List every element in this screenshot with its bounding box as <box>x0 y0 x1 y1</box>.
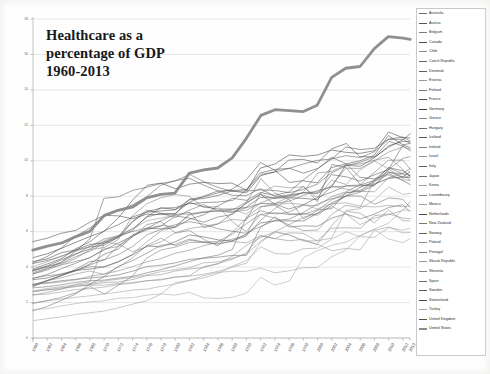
series-line <box>33 210 410 321</box>
legend-item[interactable]: United States <box>417 324 485 334</box>
legend-item-label: Sweden <box>429 288 442 293</box>
legend-item[interactable]: Turkey <box>417 305 485 315</box>
legend-line-swatch <box>419 223 427 224</box>
legend-item-label: United States <box>429 326 451 331</box>
legend-item[interactable]: Denmark <box>417 66 485 76</box>
legend-item[interactable]: Slovak Republic <box>417 257 485 267</box>
series-line <box>33 141 410 274</box>
legend-item[interactable]: Norway <box>417 229 485 239</box>
legend-item[interactable]: Finland <box>417 85 485 95</box>
legend-line-swatch <box>419 271 427 272</box>
legend-item[interactable]: Israel <box>417 152 485 162</box>
y-tick-label: 6 <box>18 229 28 233</box>
legend-item-label: Australia <box>429 11 443 16</box>
legend-item[interactable]: Portugal <box>417 248 485 258</box>
legend-item-label: United Kingdom <box>429 317 455 322</box>
legend-item[interactable]: Canada <box>417 38 485 48</box>
legend-line-swatch <box>419 233 427 234</box>
legend-item[interactable]: France <box>417 95 485 105</box>
legend-item-label: Israel <box>429 154 438 159</box>
legend-item[interactable]: Iceland <box>417 133 485 143</box>
legend-item[interactable]: Switzerland <box>417 295 485 305</box>
legend-item[interactable]: Netherlands <box>417 209 485 219</box>
legend-line-swatch <box>419 42 427 43</box>
legend-item[interactable]: Czech Republic <box>417 57 485 67</box>
series-line <box>33 175 410 274</box>
legend-line-swatch <box>419 156 427 157</box>
legend-item-label: Korea <box>429 183 439 188</box>
legend-item-label: Mexico <box>429 202 441 207</box>
legend-line-swatch <box>419 281 427 282</box>
y-tick-label: 8 <box>18 194 28 198</box>
legend-item[interactable]: Ireland <box>417 143 485 153</box>
legend-line-swatch <box>419 109 427 110</box>
legend-item-label: Turkey <box>429 307 440 312</box>
legend-line-swatch <box>419 13 427 14</box>
legend-line-swatch <box>419 118 427 119</box>
legend-line-swatch <box>419 309 427 310</box>
legend-line-swatch <box>419 300 427 301</box>
legend-item-label: Switzerland <box>429 298 448 303</box>
y-tick-label: 2 <box>18 300 28 304</box>
chart-legend[interactable]: AustraliaAustriaBelgiumCanadaChileCzech … <box>416 8 486 356</box>
legend-item-label: Chile <box>429 49 437 54</box>
legend-line-swatch <box>419 214 427 215</box>
legend-line-swatch <box>419 71 427 72</box>
y-tick-label: 16 <box>18 52 28 56</box>
legend-item[interactable]: Chile <box>417 47 485 57</box>
legend-item-label: Luxembourg <box>429 193 450 198</box>
legend-item[interactable]: Spain <box>417 276 485 286</box>
legend-item[interactable]: United Kingdom <box>417 315 485 325</box>
legend-item-label: Spain <box>429 279 438 284</box>
legend-line-swatch <box>419 328 427 330</box>
legend-item-label: Hungary <box>429 126 443 131</box>
legend-item-label: Portugal <box>429 250 443 255</box>
legend-item[interactable]: Poland <box>417 238 485 248</box>
legend-item[interactable]: Japan <box>417 171 485 181</box>
legend-item[interactable]: Luxembourg <box>417 190 485 200</box>
legend-line-swatch <box>419 23 427 24</box>
legend-item-label: Denmark <box>429 69 444 74</box>
legend-item[interactable]: Estonia <box>417 76 485 86</box>
legend-item[interactable]: Italy <box>417 162 485 172</box>
legend-item-label: Netherlands <box>429 212 449 217</box>
legend-item[interactable]: Australia <box>417 9 485 19</box>
legend-item-label: Estonia <box>429 78 441 83</box>
legend-item-label: Austria <box>429 21 440 26</box>
y-tick-label: 18 <box>18 17 28 21</box>
series-line <box>33 137 410 270</box>
legend-item[interactable]: Korea <box>417 181 485 191</box>
legend-item[interactable]: Sweden <box>417 286 485 296</box>
legend-item-label: Greece <box>429 116 441 121</box>
legend-item[interactable]: Belgium <box>417 28 485 38</box>
legend-line-swatch <box>419 204 427 205</box>
legend-item[interactable]: Germany <box>417 104 485 114</box>
legend-item[interactable]: New Zealand <box>417 219 485 229</box>
legend-item[interactable]: Slovenia <box>417 267 485 277</box>
legend-line-swatch <box>419 90 427 91</box>
legend-line-swatch <box>419 80 427 81</box>
title-line-1: Healthcare as a <box>46 26 221 44</box>
legend-item[interactable]: Greece <box>417 114 485 124</box>
legend-item[interactable]: Mexico <box>417 200 485 210</box>
legend-line-swatch <box>419 290 427 291</box>
y-tick-label: 10 <box>18 158 28 162</box>
title-line-2: percentage of GDP <box>46 44 221 62</box>
legend-item-label: New Zealand <box>429 221 451 226</box>
legend-line-swatch <box>419 147 427 148</box>
legend-item[interactable]: Hungary <box>417 124 485 134</box>
legend-item-label: Slovak Republic <box>429 259 455 264</box>
legend-line-swatch <box>419 128 427 129</box>
series-line <box>33 168 410 280</box>
legend-line-swatch <box>419 137 427 138</box>
series-line <box>33 164 410 286</box>
legend-item-label: Ireland <box>429 145 440 150</box>
legend-line-swatch <box>419 261 427 262</box>
legend-item[interactable]: Austria <box>417 19 485 29</box>
y-tick-label: 12 <box>18 123 28 127</box>
legend-line-swatch <box>419 32 427 33</box>
legend-line-swatch <box>419 51 427 52</box>
legend-line-swatch <box>419 319 427 320</box>
legend-item-label: Canada <box>429 40 442 45</box>
chart-page: 0246810121416181960196219641966196819701… <box>0 0 490 374</box>
